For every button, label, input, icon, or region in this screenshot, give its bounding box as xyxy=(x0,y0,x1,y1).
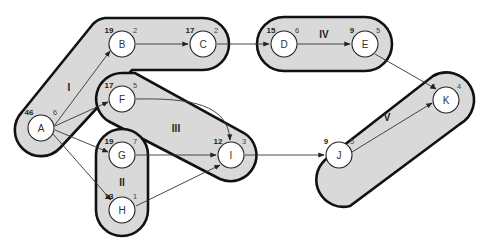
svg-text:17: 17 xyxy=(186,26,195,35)
svg-text:5: 5 xyxy=(350,137,354,146)
svg-text:H: H xyxy=(118,205,125,216)
svg-text:9: 9 xyxy=(324,137,329,146)
svg-text:46: 46 xyxy=(25,108,34,117)
group-II-label: II xyxy=(119,177,125,188)
group-V-label: V xyxy=(384,112,391,123)
svg-text:19: 19 xyxy=(105,137,114,146)
svg-text:K: K xyxy=(443,95,450,106)
svg-text:15: 15 xyxy=(267,26,276,35)
svg-text:1: 1 xyxy=(133,192,137,201)
svg-text:7: 7 xyxy=(133,137,137,146)
task-cluster-diagram: I II III IV V A 46 6 B 19 2 C 17 2 xyxy=(0,0,484,252)
svg-text:5: 5 xyxy=(376,26,380,35)
svg-text:F: F xyxy=(119,94,125,105)
svg-text:9: 9 xyxy=(350,26,355,35)
svg-text:E: E xyxy=(362,39,369,50)
svg-text:C: C xyxy=(199,39,206,50)
edge-E-K xyxy=(375,54,436,89)
svg-text:A: A xyxy=(38,123,45,134)
svg-text:6: 6 xyxy=(53,108,57,117)
group-I-label: I xyxy=(68,82,71,93)
svg-text:5: 5 xyxy=(133,81,137,90)
svg-text:4: 4 xyxy=(457,82,461,91)
svg-text:B: B xyxy=(119,39,126,50)
svg-text:19: 19 xyxy=(105,26,114,35)
svg-text:G: G xyxy=(118,150,126,161)
svg-text:2: 2 xyxy=(214,26,218,35)
svg-text:D: D xyxy=(280,39,287,50)
svg-text:3: 3 xyxy=(242,137,246,146)
svg-text:12: 12 xyxy=(214,137,223,146)
svg-text:I: I xyxy=(230,150,233,161)
group-III-label: III xyxy=(172,123,181,134)
svg-text:4: 4 xyxy=(431,82,436,91)
svg-text:6: 6 xyxy=(295,26,299,35)
svg-text:J: J xyxy=(337,150,342,161)
svg-text:17: 17 xyxy=(105,81,114,90)
group-IV-label: IV xyxy=(319,29,329,40)
svg-text:2: 2 xyxy=(133,26,137,35)
svg-text:13: 13 xyxy=(105,192,114,201)
